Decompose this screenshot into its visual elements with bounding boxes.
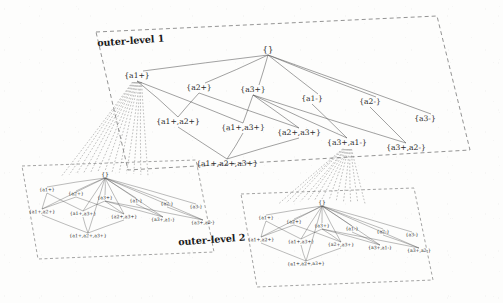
nesting-fan-left: [119, 82, 138, 173]
nesting-fan-right: [352, 149, 366, 204]
inner-lattice-edge: [88, 220, 124, 233]
lattice-node[interactable]: {a3+}: [240, 85, 265, 94]
inner-lattice-edge: [136, 204, 163, 217]
lattice-edge: [268, 55, 376, 97]
inner-lattice-edge: [266, 206, 322, 215]
inner-left-lattice-root[interactable]: {}: [101, 171, 109, 178]
inner-left-lattice-node[interactable]: {a1+,a3+}: [70, 211, 96, 216]
lattice-node[interactable]: {a3+,a1-}: [327, 138, 367, 147]
inner-left-lattice-node[interactable]: {a2+,a3+}: [111, 214, 137, 219]
inner-right-lattice-node[interactable]: {a3+,a1-}: [368, 245, 392, 250]
inner-lattice-edge: [42, 197, 76, 209]
inner-right-lattice-node[interactable]: {a1-}: [345, 226, 358, 231]
nesting-fan-right: [293, 149, 344, 202]
lattice-node[interactable]: {a1+,a3+}: [221, 123, 265, 132]
lattice-node[interactable]: {a3-}: [414, 114, 436, 123]
inner-lattice-edge: [261, 243, 306, 261]
nesting-fan-right: [279, 149, 343, 204]
inner-left-lattice-node[interactable]: {a3+,a1-}: [151, 217, 175, 222]
lattice-node-root[interactable]: {}: [263, 44, 274, 54]
inner-lattice-edge: [301, 245, 306, 261]
inner-right-lattice-root[interactable]: {}: [318, 199, 326, 206]
lattice-node[interactable]: {a1-}: [301, 94, 323, 103]
lattice-node[interactable]: {a2-}: [359, 97, 381, 106]
nesting-fan-right: [286, 149, 343, 203]
lattice-node[interactable]: {a2+,a3+}: [277, 128, 321, 137]
inner-right-lattice-node[interactable]: {a3+}: [314, 223, 329, 228]
nesting-fan-right: [308, 149, 346, 201]
inner-left-lattice-node[interactable]: {a2-}: [160, 201, 173, 206]
lattice-edge: [143, 55, 268, 71]
nesting-fan-right: [315, 149, 346, 200]
lattice-diagram: {}{a1+}{a2+}{a3+}{a1-}{a2-}{a3-}{a1+,a2+…: [0, 0, 503, 303]
nesting-fan-left: [62, 82, 133, 176]
lattice-edge: [268, 55, 431, 114]
inner-lattice-edge: [306, 248, 341, 261]
nesting-fan-left: [91, 82, 136, 173]
outer-level-1-label: outer-level 1: [97, 33, 165, 49]
inner-right-lattice-node[interactable]: {a1+,a3+}: [288, 239, 314, 244]
nesting-fan-left: [127, 82, 140, 173]
inner-right-lattice-node[interactable]: {a1+}: [258, 215, 273, 220]
inner-left-lattice-node[interactable]: {a1+,a2+}: [29, 209, 55, 214]
inner-lattice-edge: [261, 225, 294, 237]
lattice-node[interactable]: {a1+}: [124, 71, 149, 80]
lattice-node[interactable]: {a2+}: [186, 83, 211, 92]
inner-left-lattice-node[interactable]: {a2+}: [68, 191, 83, 196]
inner-lattice-edge: [88, 178, 105, 233]
inner-lattice-edge: [261, 221, 266, 237]
inner-lattice-edge: [322, 206, 412, 232]
nesting-fan-left: [69, 82, 133, 175]
inner-lattice-edge: [306, 206, 322, 261]
inner-left-lattice-node[interactable]: {a1+}: [39, 187, 55, 192]
lattice-edge: [259, 55, 268, 85]
nesting-fan-right: [329, 149, 348, 200]
inner-left-lattice-node[interactable]: {a3-}: [189, 204, 202, 209]
inner-left-lattice-node[interactable]: {a3+}: [97, 195, 112, 200]
nesting-fan-left: [76, 82, 134, 174]
lattice-node[interactable]: {a3+,a2-}: [386, 143, 426, 152]
nesting-fan-left: [98, 82, 136, 172]
nesting-fan-right: [350, 149, 351, 202]
lattice-edge: [227, 138, 299, 159]
lattice-edge: [178, 127, 227, 159]
inner-right-lattice-node[interactable]: {a3-}: [405, 232, 418, 237]
inner-right-lattice-node[interactable]: {a2-}: [376, 229, 389, 234]
inner-left-lattice-node[interactable]: {a3+,a2-}: [191, 220, 215, 225]
nesting-fan-right: [322, 149, 347, 199]
inner-lattice-edge: [105, 178, 196, 204]
inner-lattice-edge: [42, 193, 47, 209]
lattice-node[interactable]: {a1+,a2+,a3+}: [196, 159, 258, 168]
inner-right-lattice-node[interactable]: {a3+,a2-}: [407, 248, 431, 253]
lattice-node[interactable]: {a1+,a2+}: [156, 117, 200, 126]
inner-right-lattice-node[interactable]: {a1+,a2+}: [248, 237, 274, 242]
lattice-edge: [253, 95, 406, 143]
lattice-edge: [137, 81, 178, 117]
lattice-edge: [268, 55, 318, 94]
inner-right-lattice-node[interactable]: {a2+}: [286, 219, 301, 224]
figure-canvas: {}{a1+}{a2+}{a3+}{a1-}{a2-}{a3-}{a1+,a2+…: [0, 0, 503, 303]
lattice-edge: [205, 55, 268, 83]
inner-lattice-edge: [83, 217, 88, 233]
nesting-fan-left: [134, 82, 140, 174]
inner-lattice-edge: [47, 178, 105, 187]
outer-level-2-label: outer-level 2: [178, 232, 246, 248]
inner-left-lattice-node[interactable]: {a1+,a2+,a3+}: [69, 233, 106, 238]
inner-left-lattice-node[interactable]: {a1-}: [129, 198, 142, 203]
inner-lattice-edge: [42, 215, 88, 233]
lattice-edge: [178, 93, 199, 117]
inner-right-lattice-node[interactable]: {a2+,a3+}: [328, 242, 354, 247]
inner-right-lattice-node[interactable]: {a1+,a2+,a3+}: [287, 261, 324, 267]
